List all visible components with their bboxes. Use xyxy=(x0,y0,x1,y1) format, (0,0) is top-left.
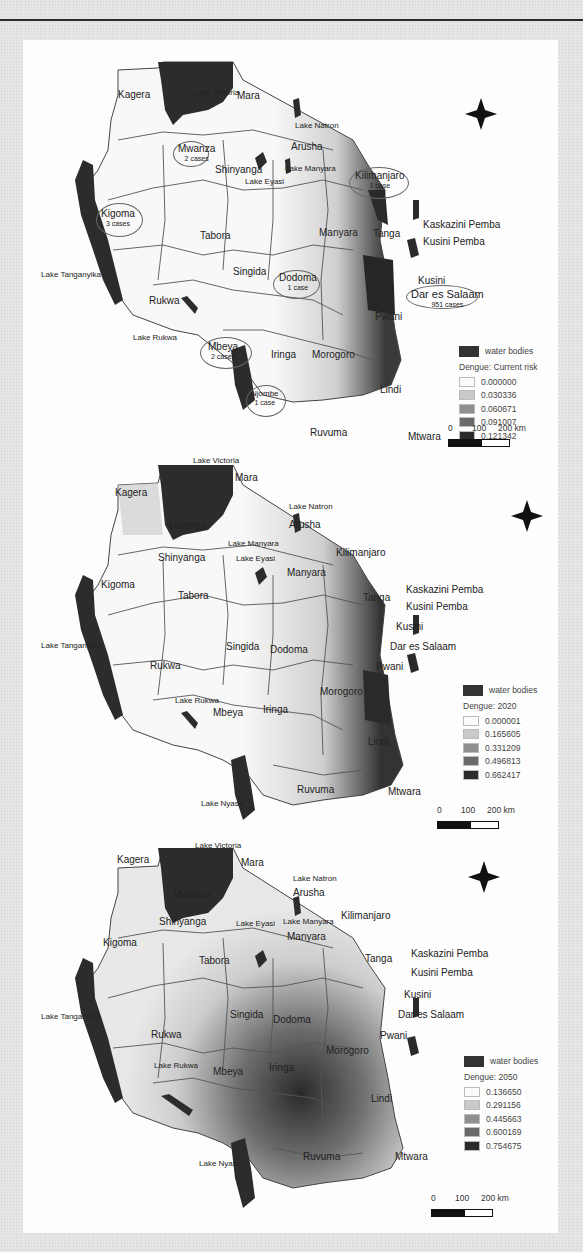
region-label-dar-es-salaam: Dar es Salaam xyxy=(390,642,456,652)
region-label-pwani: Pwani xyxy=(375,312,402,322)
region-label-rukwa: Rukwa xyxy=(149,296,180,306)
region-label-kaskazini-pemba: Kaskazini Pemba xyxy=(406,585,483,595)
legend-swatch xyxy=(464,1100,480,1110)
legend-swatch xyxy=(459,377,475,387)
region-label-ruvuma: Ruvuma xyxy=(310,428,347,438)
region-label-dodoma: Dodoma1 case xyxy=(279,273,317,291)
region-label-dodoma: Dodoma xyxy=(270,645,308,655)
region-label-njombe: Njombe1 case xyxy=(251,390,279,406)
region-label-mtwara: Mtwara xyxy=(388,787,421,797)
region-label-mbeya: Mbeya xyxy=(213,1067,243,1077)
legend-swatch xyxy=(459,404,475,414)
legend-water-label: water bodies xyxy=(490,1056,538,1066)
region-label-kusini: Kusini xyxy=(396,622,423,632)
region-label-mwanza: Mwanza2 cases xyxy=(178,144,215,162)
lake-label-eyasi: Lake Eyasi xyxy=(236,555,275,563)
legend-value: 0.000001 xyxy=(485,716,520,726)
region-label-morogoro: Morogoro xyxy=(312,350,355,360)
region-label-singida: Singida xyxy=(233,267,266,277)
legend-swatch xyxy=(464,1127,480,1137)
scale-bar-current: 0100200 km xyxy=(448,423,528,447)
water-bodies-swatch xyxy=(459,346,479,357)
region-label-kigoma: Kigoma xyxy=(101,580,135,590)
legend-title: Dengue: Current risk xyxy=(459,360,537,374)
region-label-mtwara: Mtwara xyxy=(395,1152,428,1162)
lake-label-manyara: Lake Manyara xyxy=(285,165,336,173)
region-label-dodoma: Dodoma xyxy=(273,1015,311,1025)
lake-label-tanganyika: Lake Tanganyika xyxy=(41,271,101,279)
lake-label-rukwa: Lake Rukwa xyxy=(133,334,177,342)
lake-label-tanganyika: Lake Tanganyika xyxy=(41,642,101,650)
region-label-kaskazini-pemba: Kaskazini Pemba xyxy=(423,220,500,230)
legend-2050: water bodies Dengue: 2050 0.136650 0.291… xyxy=(464,1054,538,1153)
legend-value: 0.030336 xyxy=(481,390,516,400)
region-label-lindi: Lindi xyxy=(371,1094,392,1104)
region-label-arusha: Arusha xyxy=(289,520,321,530)
lake-label-tanganyika: Lake Tanganyika xyxy=(41,1013,101,1021)
map-panel-2020: Lake Victoria Kagera Mara Lake Natron Mw… xyxy=(23,465,558,830)
region-label-dar-es-salaam: Dar es Salaam951 cases xyxy=(411,289,484,308)
region-label-kusini-pemba: Kusini Pemba xyxy=(411,968,473,978)
lake-label-natron: Lake Natron xyxy=(293,875,337,883)
region-label-rukwa: Rukwa xyxy=(151,1030,182,1040)
tanzania-map-2050 xyxy=(23,848,558,1233)
region-label-tanga: Tanga xyxy=(363,593,390,603)
legend-value: 0.136650 xyxy=(486,1087,521,1097)
region-label-kagera: Kagera xyxy=(115,488,147,498)
legend-title: Dengue: 2050 xyxy=(464,1070,538,1084)
region-label-kilimanjaro: Kilimanjaro1 case xyxy=(355,171,404,189)
scale-bar-graphic xyxy=(437,821,499,829)
region-label-kusini: Kusini xyxy=(404,990,431,1000)
region-label-mwanza: Mwanza xyxy=(173,890,210,900)
region-label-tabora: Tabora xyxy=(199,956,230,966)
legend-value: 0.165605 xyxy=(485,729,520,739)
legend-value: 0.000000 xyxy=(481,377,516,387)
region-label-mara: Mara xyxy=(237,91,260,101)
region-label-mara: Mara xyxy=(235,473,258,483)
region-label-tanga: Tanga xyxy=(373,229,400,239)
region-label-mtwara: Mtwara xyxy=(408,432,441,442)
region-label-iringa: Iringa xyxy=(269,1063,294,1073)
water-bodies-swatch xyxy=(464,1056,484,1067)
region-label-manyara: Manyara xyxy=(287,932,326,942)
region-label-kilimanjaro: Kilimanjaro xyxy=(341,911,390,921)
legend-value: 0.331209 xyxy=(485,743,520,753)
region-label-kigoma: Kigoma3 cases xyxy=(101,209,135,227)
region-label-ruvuma: Ruvuma xyxy=(303,1152,340,1162)
legend-swatch xyxy=(463,756,479,766)
region-label-lindi: Lindi xyxy=(380,385,401,395)
region-label-manyara: Manyara xyxy=(287,568,326,578)
legend-swatch xyxy=(463,770,479,780)
legend-swatch xyxy=(463,743,479,753)
region-label-mbeya: Mbeya2 cases xyxy=(208,342,238,360)
region-label-manyara: Manyara xyxy=(319,228,358,238)
legend-water-label: water bodies xyxy=(489,685,537,695)
legend-value: 0.754675 xyxy=(486,1141,521,1151)
lake-label-victoria: Lake Victoria xyxy=(195,842,241,850)
region-label-pwani: Pwani xyxy=(376,662,403,672)
lake-label-eyasi: Lake Eyasi xyxy=(245,178,284,186)
lake-label-rukwa: Lake Rukwa xyxy=(175,697,219,705)
legend-value: 0.496813 xyxy=(485,756,520,766)
region-label-singida: Singida xyxy=(230,1010,263,1020)
legend-swatch xyxy=(464,1141,480,1151)
region-label-pwani: Pwani xyxy=(380,1031,407,1041)
map-panel-current-risk: Kagera Lake Victoria Mara Lake Natron Mw… xyxy=(23,40,558,440)
legend-water-label: water bodies xyxy=(485,346,533,356)
region-label-rukwa: Rukwa xyxy=(150,661,181,671)
legend-value: 0.291156 xyxy=(486,1100,521,1110)
region-label-arusha: Arusha xyxy=(291,142,323,152)
region-label-iringa: Iringa xyxy=(271,350,296,360)
region-label-morogoro: Morogoro xyxy=(326,1046,369,1056)
legend-swatch xyxy=(463,716,479,726)
region-label-tabora: Tabora xyxy=(178,591,209,601)
region-label-kilimanjaro: Kilimanjaro xyxy=(336,548,385,558)
lake-label-victoria: Lake Victoria xyxy=(193,89,239,97)
region-label-ruvuma: Ruvuma xyxy=(297,785,334,795)
region-label-arusha: Arusha xyxy=(293,888,325,898)
region-label-dar-es-salaam: Dar es Salaam xyxy=(398,1010,464,1020)
region-label-kaskazini-pemba: Kaskazini Pemba xyxy=(411,949,488,959)
region-label-kusini: Kusini xyxy=(418,276,445,286)
region-label-kusini-pemba: Kusini Pemba xyxy=(423,237,485,247)
lake-label-natron: Lake Natron xyxy=(295,122,339,130)
